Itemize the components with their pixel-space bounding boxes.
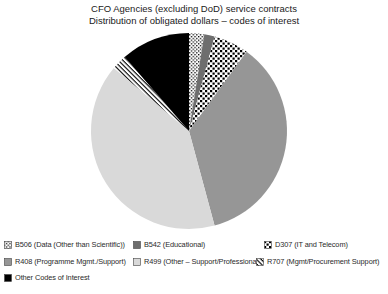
page-root: { "chart_data": { "type": "pie", "title"… xyxy=(0,0,388,294)
legend-label-b506: B506 (Data (Other than Scientific)) xyxy=(15,240,125,249)
r499-swatch-icon xyxy=(133,258,141,266)
r408-swatch-icon xyxy=(4,258,12,266)
legend-label-other: Other Codes of Interest xyxy=(15,273,90,282)
b506-swatch-icon xyxy=(4,241,12,249)
legend-label-r408: R408 (Programme Mgmt./Support) xyxy=(15,257,126,266)
legend-label-d307: D307 (IT and Telecom) xyxy=(275,240,348,249)
legend-item-r408: R408 (Programme Mgmt./Support) xyxy=(4,257,126,266)
legend-item-b506: B506 (Data (Other than Scientific)) xyxy=(4,240,125,249)
legend-item-d307: D307 (IT and Telecom) xyxy=(264,240,348,249)
other-codes-swatch-icon xyxy=(4,274,12,282)
legend-label-b542: B542 (Educational) xyxy=(144,240,205,249)
d307-swatch-icon xyxy=(264,241,272,249)
b542-swatch-icon xyxy=(133,241,141,249)
legend-item-r707: R707 (Mgmt/Procurement Support) xyxy=(256,257,379,266)
legend-item-b542: B542 (Educational) xyxy=(133,240,205,249)
chart-legend: B506 (Data (Other than Scientific)) B542… xyxy=(0,0,388,294)
legend-item-r499: R499 (Other – Support/Professional) xyxy=(133,257,260,266)
legend-item-other: Other Codes of Interest xyxy=(4,273,90,282)
legend-label-r499: R499 (Other – Support/Professional) xyxy=(144,257,260,266)
legend-label-r707: R707 (Mgmt/Procurement Support) xyxy=(267,257,379,266)
r707-swatch-icon xyxy=(256,258,264,266)
